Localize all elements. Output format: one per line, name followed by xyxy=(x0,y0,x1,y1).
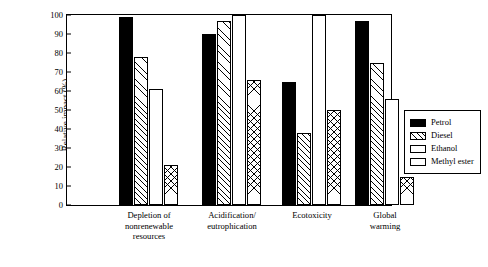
plot-area: 0102030405060708090100 xyxy=(67,15,391,205)
x-category-label: Acidification/ eutrophication xyxy=(187,210,277,231)
bar-petrol xyxy=(202,34,216,205)
bar-group xyxy=(282,15,344,205)
bar-petrol xyxy=(355,21,369,205)
y-tick-mark xyxy=(67,34,71,35)
bar-group xyxy=(119,15,181,205)
y-tick-label: 40 xyxy=(55,125,68,134)
bar-petrol xyxy=(282,82,296,206)
legend-label: Petrol xyxy=(431,118,451,127)
legend-label: Ethanol xyxy=(431,144,457,153)
y-tick-mark xyxy=(67,205,71,206)
y-tick-mark xyxy=(67,110,71,111)
bar-diesel xyxy=(297,133,311,205)
plot-frame: 0102030405060708090100 xyxy=(66,14,392,206)
bar-ethanol xyxy=(312,15,326,205)
legend-swatch-methyl-ester xyxy=(410,158,426,166)
x-category-label: Global warming xyxy=(340,210,430,231)
bar-diesel xyxy=(370,63,384,206)
y-tick-mark xyxy=(67,186,71,187)
bar-chart: Relative impact (%) 01020304050607080901… xyxy=(0,0,488,267)
legend-swatch-petrol xyxy=(410,119,426,127)
legend-label: Methyl ester xyxy=(431,157,474,166)
legend-item[interactable]: Ethanol xyxy=(410,142,474,155)
y-tick-label: 80 xyxy=(55,49,68,58)
bar-methyl-ester xyxy=(247,80,261,205)
y-tick-mark xyxy=(67,148,71,149)
legend: PetrolDieselEthanolMethyl ester xyxy=(404,110,481,174)
y-tick-label: 60 xyxy=(55,87,68,96)
bar-diesel xyxy=(217,21,231,205)
y-tick-label: 70 xyxy=(55,68,68,77)
legend-item[interactable]: Petrol xyxy=(410,116,474,129)
y-tick-mark xyxy=(67,53,71,54)
y-tick-mark xyxy=(67,15,71,16)
bar-methyl-ester xyxy=(164,165,178,205)
legend-swatch-ethanol xyxy=(410,145,426,153)
y-tick-label: 90 xyxy=(55,30,68,39)
legend-swatch-diesel xyxy=(410,132,426,140)
bar-ethanol xyxy=(385,99,399,205)
bar-ethanol xyxy=(232,15,246,205)
bar-methyl-ester xyxy=(400,177,414,206)
y-tick-mark xyxy=(67,91,71,92)
legend-item[interactable]: Diesel xyxy=(410,129,474,142)
y-tick-mark xyxy=(67,72,71,73)
y-tick-label: 0 xyxy=(59,201,67,210)
y-tick-label: 20 xyxy=(55,163,68,172)
bar-petrol xyxy=(119,17,133,205)
legend-label: Diesel xyxy=(431,131,453,140)
bar-ethanol xyxy=(149,89,163,205)
bar-diesel xyxy=(134,57,148,205)
bar-methyl-ester xyxy=(327,110,341,205)
y-tick-mark xyxy=(67,167,71,168)
y-tick-label: 50 xyxy=(55,106,68,115)
y-tick-label: 30 xyxy=(55,144,68,153)
legend-item[interactable]: Methyl ester xyxy=(410,155,474,168)
x-category-label: Depletion of nonrenewable resources xyxy=(104,210,194,242)
y-tick-mark xyxy=(67,129,71,130)
y-tick-label: 10 xyxy=(55,182,68,191)
y-tick-label: 100 xyxy=(50,11,67,20)
bar-group xyxy=(202,15,264,205)
